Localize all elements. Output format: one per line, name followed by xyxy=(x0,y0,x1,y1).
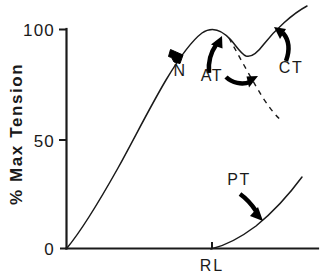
chart-figure-root: 100 50 0 RL % Max Tension N AT xyxy=(0,0,320,278)
active-tension-dashed-curve xyxy=(229,38,282,121)
label-ct: CT xyxy=(279,59,303,76)
label-n: N xyxy=(173,62,186,79)
y-axis-title: % Max Tension xyxy=(7,63,26,205)
label-pt: PT xyxy=(227,171,250,188)
annotation-pt-group: PT xyxy=(227,171,263,221)
muscle-length-tension-chart: 100 50 0 RL % Max Tension N AT xyxy=(0,0,320,278)
pt-arrow-shaft xyxy=(240,194,256,211)
y-tick-label-50: 50 xyxy=(34,132,55,151)
y-tick-marks xyxy=(59,30,67,249)
label-at: AT xyxy=(201,67,223,84)
annotation-at-group: AT xyxy=(201,36,258,88)
y-tick-label-100: 100 xyxy=(23,21,55,40)
x-tick-label-rl: RL xyxy=(200,257,224,274)
annotation-ct-group: CT xyxy=(274,27,303,76)
ct-arrow-shaft xyxy=(283,33,288,61)
at-arrow-right-shaft xyxy=(226,77,250,83)
y-tick-label-0: 0 xyxy=(44,240,55,259)
